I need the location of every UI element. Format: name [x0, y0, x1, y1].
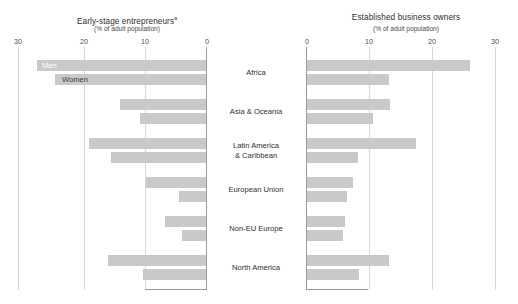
- left-panel-subtitle: (% of adult population): [47, 24, 207, 33]
- category-label-asia: Asia & Oceania: [211, 107, 301, 117]
- right-tick-30: 30: [484, 37, 506, 46]
- right-tick-20: 20: [421, 37, 443, 46]
- bar-right-women-latam: [307, 152, 358, 163]
- right-panel-subtitle: (% of adult population): [321, 24, 491, 33]
- bar-left-men-eu: [146, 177, 206, 188]
- series-label-men: Men: [42, 60, 57, 71]
- category-label-africa: Africa: [211, 68, 301, 78]
- right-panel-title: Established business owners: [321, 13, 491, 23]
- bar-right-men-latam: [307, 138, 416, 149]
- bar-left-men-africa: [37, 60, 206, 71]
- bar-right-women-africa: [307, 74, 389, 85]
- bar-right-women-eu: [307, 191, 347, 202]
- bar-left-women-northam: [143, 269, 206, 280]
- right-tick-10: 10: [358, 37, 380, 46]
- category-label-noneu: Non-EU Europe: [211, 224, 301, 234]
- chart-canvas: Early-stage entrepreneursa (% of adult p…: [0, 0, 518, 304]
- bar-left-women-latam: [111, 152, 206, 163]
- bar-left-men-northam: [108, 255, 206, 266]
- bar-right-women-northam: [307, 269, 359, 280]
- left-base-rule: [145, 289, 207, 290]
- bar-right-men-noneu: [307, 216, 345, 227]
- bar-left-women-noneu: [182, 230, 206, 241]
- bar-left-men-noneu: [165, 216, 206, 227]
- left-tick-30: 30: [7, 37, 29, 46]
- left-zero-axis: [206, 47, 207, 290]
- bar-right-men-eu: [307, 177, 353, 188]
- bar-right-men-africa: [307, 60, 470, 71]
- left-tick-0: 0: [196, 37, 218, 46]
- bar-left-women-eu: [179, 191, 206, 202]
- bar-left-women-asia: [140, 113, 206, 124]
- category-label-latam-line2: & Caribbean: [211, 151, 301, 161]
- series-label-women: Women: [62, 74, 88, 85]
- bar-left-men-asia: [120, 99, 206, 110]
- right-gridline-30: [495, 47, 496, 290]
- category-label-latam-line1: Latin America: [211, 141, 301, 151]
- bar-right-women-asia: [307, 113, 373, 124]
- left-tick-10: 10: [134, 37, 156, 46]
- category-label-northam: North America: [211, 263, 301, 273]
- left-panel-title-marker: a: [174, 15, 177, 21]
- bar-right-women-noneu: [307, 230, 343, 241]
- left-tick-20: 20: [73, 37, 95, 46]
- bar-left-men-latam: [89, 138, 206, 149]
- left-gridline-30: [18, 47, 19, 290]
- right-base-rule: [306, 289, 368, 290]
- right-tick-0: 0: [296, 37, 318, 46]
- category-label-eu: European Union: [211, 185, 301, 195]
- right-gridline-20: [432, 47, 433, 290]
- bar-right-men-asia: [307, 99, 390, 110]
- bar-right-men-northam: [307, 255, 389, 266]
